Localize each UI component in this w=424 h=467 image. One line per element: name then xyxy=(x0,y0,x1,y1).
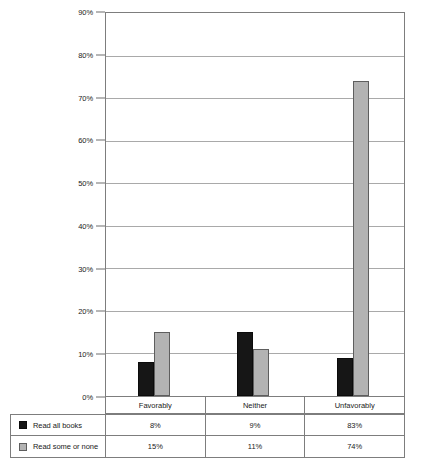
table-cell-read-all-books-favorably: 8% xyxy=(106,415,206,435)
table-cell-read-all-books-neither: 9% xyxy=(206,415,306,435)
table-row: Read some or none 15% 11% 74% xyxy=(11,436,404,457)
y-tick-label: 20% xyxy=(78,307,93,316)
bar-group-favorably xyxy=(106,13,205,396)
y-tick-label: 50% xyxy=(78,179,93,188)
plot-area xyxy=(105,12,405,397)
y-tick-mark xyxy=(96,140,105,141)
bar-read-some-or-none-neither[interactable] xyxy=(253,349,269,396)
bar-read-all-books-favorably[interactable] xyxy=(138,362,154,396)
legend-entry-read-all-books[interactable]: Read all books xyxy=(11,415,106,435)
y-tick-label: 40% xyxy=(78,221,93,230)
table-row: Read all books 8% 9% 83% xyxy=(11,415,404,436)
y-tick-label: 90% xyxy=(78,8,93,17)
legend-data-table: Read all books 8% 9% 83% Read some or no… xyxy=(10,414,405,458)
y-tick-mark xyxy=(96,311,105,312)
y-tick-mark xyxy=(96,54,105,55)
y-tick-mark xyxy=(96,225,105,226)
y-tick-mark xyxy=(96,183,105,184)
gray-square-swatch-icon xyxy=(19,443,27,451)
table-cell-read-some-or-none-neither: 11% xyxy=(206,436,306,457)
category-label-favorably: Favorably xyxy=(106,397,206,413)
legend-label: Read some or none xyxy=(33,442,98,451)
bar-read-all-books-unfavorably[interactable] xyxy=(337,358,353,396)
bar-read-some-or-none-unfavorably[interactable] xyxy=(353,81,369,396)
y-tick-mark xyxy=(96,12,105,13)
bars-layer xyxy=(106,13,404,396)
category-label-row: Favorably Neither Unfavorably xyxy=(105,397,405,414)
y-tick-label: 60% xyxy=(78,136,93,145)
category-label-unfavorably: Unfavorably xyxy=(305,397,404,413)
bar-group-unfavorably xyxy=(305,13,404,396)
plot-area-wrapper xyxy=(105,12,405,397)
table-cell-read-all-books-unfavorably: 83% xyxy=(305,415,404,435)
table-cell-read-some-or-none-favorably: 15% xyxy=(106,436,206,457)
bar-read-some-or-none-favorably[interactable] xyxy=(154,332,170,396)
y-tick-label: 10% xyxy=(78,350,93,359)
y-tick-label: 70% xyxy=(78,93,93,102)
y-tick-mark xyxy=(96,97,105,98)
y-tick-label: 30% xyxy=(78,264,93,273)
y-tick-mark xyxy=(96,268,105,269)
category-label-neither: Neither xyxy=(206,397,306,413)
legend-label: Read all books xyxy=(33,421,82,430)
y-tick-mark xyxy=(96,397,105,398)
y-tick-label: 80% xyxy=(78,50,93,59)
bar-group-neither xyxy=(205,13,304,396)
bar-read-all-books-neither[interactable] xyxy=(237,332,253,396)
y-axis: 90% 80% 70% 60% 50% 40% 30% 20% 10% 0% xyxy=(0,12,105,397)
black-square-swatch-icon xyxy=(19,421,27,429)
legend-entry-read-some-or-none[interactable]: Read some or none xyxy=(11,436,106,457)
y-tick-mark xyxy=(96,354,105,355)
bar-chart-figure: 90% 80% 70% 60% 50% 40% 30% 20% 10% 0% xyxy=(0,0,424,467)
table-cell-read-some-or-none-unfavorably: 74% xyxy=(305,436,404,457)
y-tick-label: 0% xyxy=(82,393,93,402)
